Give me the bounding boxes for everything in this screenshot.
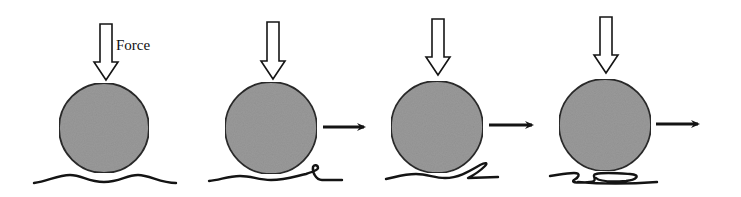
panel-4 xyxy=(550,17,698,184)
force-arrow-icon xyxy=(261,22,285,79)
flexible-surface xyxy=(34,175,176,183)
force-arrow-icon xyxy=(426,19,450,75)
ball xyxy=(225,82,317,174)
ball xyxy=(59,83,149,173)
force-label: Force xyxy=(116,38,150,53)
ball xyxy=(559,79,651,171)
panel-3 xyxy=(386,19,532,179)
force-arrow-icon xyxy=(94,24,118,80)
flexible-surface xyxy=(550,173,657,184)
force-arrow-icon xyxy=(594,17,618,73)
ball xyxy=(391,81,483,173)
panel-2 xyxy=(209,22,364,181)
panel-1 xyxy=(34,24,176,183)
diagram-canvas xyxy=(0,0,741,197)
